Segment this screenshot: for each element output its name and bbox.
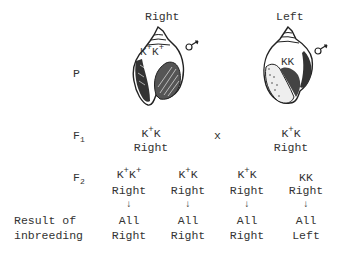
parent-left-coiling-heading: Left (276, 11, 304, 23)
result-label-line2: inbreeding (14, 230, 83, 242)
f2-phenotype-2: Right (163, 185, 213, 197)
f2-phenotype-4: Right (281, 185, 331, 197)
down-arrow-icon: ↓ (222, 200, 272, 210)
result-3-line1: All (222, 215, 272, 227)
parent-right-coiling-heading: Right (145, 11, 180, 23)
result-4-line1: All (281, 215, 331, 227)
f1-left-phenotype: Right (126, 142, 176, 154)
f1-right-genotype: K+K (266, 128, 316, 140)
f2-phenotype-3: Right (222, 185, 272, 197)
f1-right-phenotype: Right (266, 142, 316, 154)
f2-genotype-4: KK (281, 172, 331, 184)
dextral-snail-illustration (130, 25, 190, 107)
result-4-line2: Left (281, 230, 331, 242)
result-2-line2: Right (163, 230, 213, 242)
row-label-f2: F2 (73, 172, 85, 184)
result-label-line1: Result of (14, 215, 76, 227)
f2-genotype-1: K+K+ (104, 169, 154, 181)
f2-phenotype-1: Right (104, 185, 154, 197)
down-arrow-icon: ↓ (104, 200, 154, 210)
row-label-f1: F1 (73, 130, 85, 142)
down-arrow-icon: ↓ (281, 200, 331, 210)
male-symbol-icon (314, 44, 330, 56)
result-1-line2: Right (104, 230, 154, 242)
down-arrow-icon: ↓ (163, 200, 213, 210)
cross-symbol: x (214, 130, 221, 142)
row-label-p: P (73, 68, 80, 80)
result-2-line1: All (163, 215, 213, 227)
male-symbol-icon (185, 40, 201, 52)
f2-genotype-2: K+K (163, 169, 213, 181)
parent-left-genotype: KK (281, 57, 294, 68)
f1-left-genotype: K+K (126, 128, 176, 140)
result-3-line2: Right (222, 230, 272, 242)
f2-genotype-3: K+K (222, 169, 272, 181)
result-1-line1: All (104, 215, 154, 227)
parent-right-genotype: K+K+ (140, 47, 164, 58)
